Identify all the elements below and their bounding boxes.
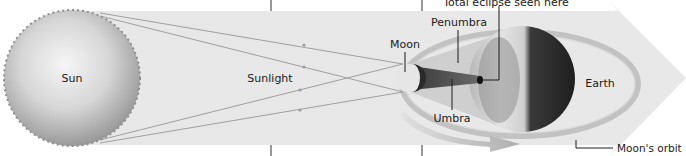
- earth-label: Earth: [585, 77, 615, 90]
- total-eclipse-label: Total eclipse seen here: [442, 0, 569, 9]
- sunlight-label: Sunlight: [247, 72, 293, 85]
- sun-label: Sun: [62, 72, 83, 85]
- moon-label: Moon: [390, 38, 420, 51]
- penumbra-label: Penumbra: [431, 16, 487, 29]
- eclipse-diagram: Total eclipse seen here Sun Sunlight Moo…: [0, 0, 686, 156]
- moons-orbit-label: Moon's orbit: [617, 142, 682, 154]
- umbra-label: Umbra: [433, 112, 470, 125]
